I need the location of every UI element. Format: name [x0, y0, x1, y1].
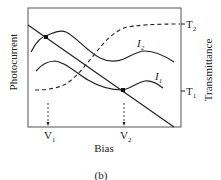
t2-label: T2	[186, 18, 197, 33]
right-axis-label: Transmittance	[202, 39, 214, 102]
curve-i2	[31, 31, 174, 62]
t1-label: T1	[186, 85, 197, 100]
x-axis-label: Bias	[94, 142, 114, 154]
operating-point-v1	[44, 35, 48, 39]
v2-arrowhead-icon	[123, 122, 126, 126]
plot-frame	[28, 8, 181, 127]
v1-label: V1	[44, 129, 56, 144]
v1-arrowhead-icon	[47, 122, 50, 126]
diagram-canvas: T2 T1 I2 I1 V1 V2 Bias Photocurrent Tran…	[0, 0, 221, 180]
i2-label: I2	[136, 37, 145, 52]
load-line	[28, 25, 174, 127]
left-axis-label: Photocurrent	[7, 34, 19, 91]
operating-point-v2	[121, 88, 125, 92]
v2-label: V2	[120, 129, 132, 144]
panel-label: (b)	[95, 169, 108, 180]
